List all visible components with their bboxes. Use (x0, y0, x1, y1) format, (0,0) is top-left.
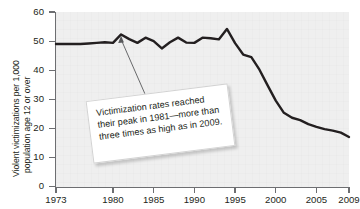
annotation-callout-text: Victimization rates reached their peak i… (95, 91, 225, 143)
